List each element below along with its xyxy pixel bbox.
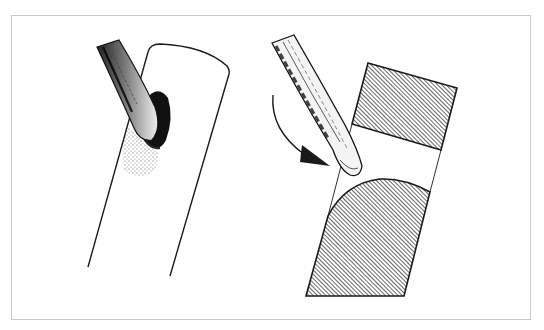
upper-hatched-section — [352, 63, 457, 150]
right-panel — [272, 35, 457, 296]
cylinder-stem — [88, 44, 229, 276]
lower-hatched-section — [306, 179, 430, 296]
illustration — [0, 0, 544, 330]
left-panel — [88, 40, 229, 276]
knife-blade-right — [272, 35, 362, 176]
